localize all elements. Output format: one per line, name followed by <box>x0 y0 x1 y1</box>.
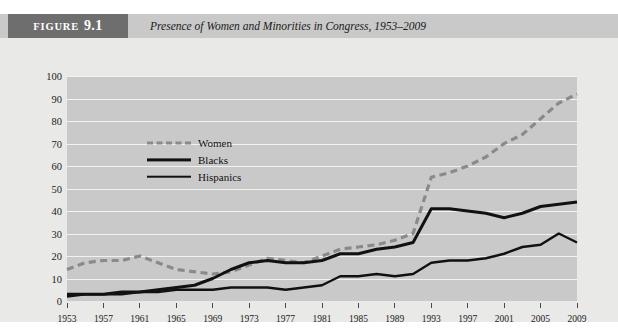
legend-label-hispanics: Hispanics <box>198 171 241 183</box>
x-axis-tick-label: 1985 <box>349 314 368 324</box>
figure-badge-word: Figure <box>33 21 79 32</box>
legend-swatch-hispanics-icon <box>147 171 191 182</box>
series-line-hispanics <box>67 234 577 297</box>
x-axis-tick-mark <box>577 303 578 308</box>
figure-badge-number: 9.1 <box>84 18 103 34</box>
legend-item-hispanics: Hispanics <box>147 168 241 185</box>
figure-number-badge: Figure 9.1 <box>8 14 128 38</box>
y-axis-tick-label: 30 <box>22 228 62 239</box>
x-axis-tick-mark <box>249 303 250 308</box>
x-axis-tick-label: 2005 <box>531 314 550 324</box>
y-axis-tick-label: 0 <box>22 296 62 307</box>
y-axis-tick-label: 100 <box>22 71 62 82</box>
x-axis-tick-label: 1969 <box>203 314 222 324</box>
x-axis-tick-mark <box>322 303 323 308</box>
y-axis-tick-label: 50 <box>22 183 62 194</box>
y-axis-tick-label: 60 <box>22 161 62 172</box>
x-axis-tick-mark <box>139 303 140 308</box>
x-axis-tick-mark <box>358 303 359 308</box>
x-axis-tick-label: 1977 <box>276 314 295 324</box>
x-axis-tick-mark <box>285 303 286 308</box>
x-axis-tick-mark <box>504 303 505 308</box>
x-axis-tick-mark <box>394 303 395 308</box>
x-axis-tick-label: 2001 <box>495 314 514 324</box>
legend-item-blacks: Blacks <box>147 151 241 168</box>
x-axis-tick-label: 1965 <box>167 314 186 324</box>
chart-area: 1009080706050403020100 Women Blacks Hisp… <box>0 38 618 322</box>
x-axis-labels: 1953195719611965196919731977198119851989… <box>0 308 618 324</box>
x-axis-tick-label: 1953 <box>58 314 77 324</box>
figure-container: Figure 9.1 Presence of Women and Minorit… <box>0 14 618 322</box>
legend-label-blacks: Blacks <box>198 154 228 166</box>
chart-legend: Women Blacks Hispanics <box>147 134 241 185</box>
plot-area: Women Blacks Hispanics <box>67 76 577 301</box>
x-axis-tick-label: 1973 <box>240 314 259 324</box>
y-axis-tick-label: 40 <box>22 206 62 217</box>
y-axis-tick-label: 10 <box>22 273 62 284</box>
x-axis-tick-mark <box>540 303 541 308</box>
y-axis-labels: 1009080706050403020100 <box>18 76 62 301</box>
x-axis-tick-mark <box>431 303 432 308</box>
x-axis-tick-mark <box>176 303 177 308</box>
legend-swatch-blacks-icon <box>147 154 191 165</box>
figure-header-band: Figure 9.1 Presence of Women and Minorit… <box>0 14 618 38</box>
x-axis-tick-label: 1993 <box>422 314 441 324</box>
figure-caption: Presence of Women and Minorities in Cong… <box>150 14 426 38</box>
x-axis-tick-mark <box>103 303 104 308</box>
x-axis-tick-mark <box>467 303 468 308</box>
x-axis-tick-label: 1997 <box>458 314 477 324</box>
series-lines <box>67 76 577 301</box>
series-line-women <box>67 94 577 274</box>
x-axis-tick-label: 1961 <box>130 314 149 324</box>
x-axis-tick-label: 2009 <box>568 314 587 324</box>
y-axis-tick-label: 80 <box>22 116 62 127</box>
y-axis-tick-label: 90 <box>22 93 62 104</box>
x-axis-tick-label: 1989 <box>385 314 404 324</box>
x-axis-tick-label: 1981 <box>313 314 332 324</box>
legend-swatch-women-icon <box>147 137 191 148</box>
x-axis-tick-mark <box>212 303 213 308</box>
y-axis-tick-label: 20 <box>22 251 62 262</box>
y-axis-tick-label: 70 <box>22 138 62 149</box>
legend-label-women: Women <box>198 137 232 149</box>
x-axis-tick-mark <box>67 303 68 308</box>
x-axis-tick-label: 1957 <box>94 314 113 324</box>
series-line-blacks <box>67 202 577 294</box>
legend-item-women: Women <box>147 134 241 151</box>
